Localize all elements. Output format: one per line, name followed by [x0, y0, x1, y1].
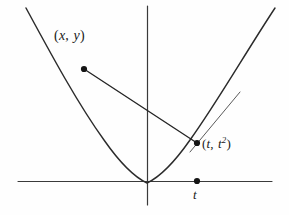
label-tt2-close-paren: ): [226, 136, 231, 151]
figure-canvas: [0, 0, 289, 215]
label-point-tt2: (t, t2): [202, 136, 231, 150]
point-t-axis-dot: [194, 178, 200, 184]
label-point-xy: (x, y): [54, 29, 85, 43]
parabola-figure: (x, y) (t, t2) t: [0, 0, 289, 215]
label-xy-close-paren: ): [80, 28, 85, 43]
point-tt2-dot: [194, 140, 200, 146]
label-tt2-comma: ,: [210, 136, 214, 151]
point-xy-dot: [81, 66, 87, 72]
label-xy-comma: ,: [65, 28, 70, 43]
label-axis-tick-t: t: [193, 188, 197, 201]
chord-segment: [84, 69, 197, 143]
